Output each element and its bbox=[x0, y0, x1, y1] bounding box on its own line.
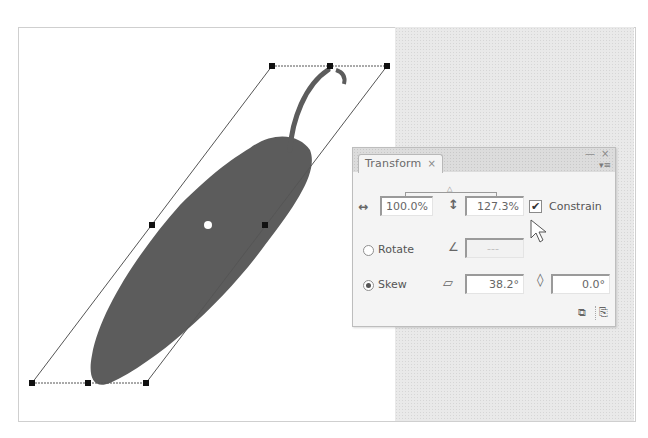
skew-label: Skew bbox=[378, 278, 407, 291]
scale-width-icon: ↔ bbox=[358, 200, 368, 214]
constrain-label: Constrain bbox=[549, 200, 602, 213]
rotate-label: Rotate bbox=[378, 243, 414, 256]
scale-height-input[interactable]: 127.3% bbox=[465, 196, 524, 216]
handle-top-center bbox=[327, 63, 333, 69]
constrain-link-icon: △ bbox=[447, 185, 452, 193]
rotate-angle-icon: ∠ bbox=[448, 240, 459, 254]
close-icon[interactable]: × bbox=[601, 148, 609, 159]
handle-bottom-center bbox=[85, 380, 91, 386]
handle-bottom-left bbox=[29, 380, 35, 386]
scale-height-icon: ↕ bbox=[448, 197, 459, 212]
handle-middle-left bbox=[149, 222, 155, 228]
handle-middle-right bbox=[262, 222, 268, 228]
chili-stem bbox=[290, 70, 328, 150]
rotate-angle-input[interactable]: --- bbox=[465, 238, 524, 258]
tab-close-icon[interactable]: × bbox=[428, 155, 437, 173]
handle-top-right bbox=[384, 63, 390, 69]
chili-pepper-shape[interactable] bbox=[91, 136, 312, 384]
skew-vertical-icon: ◊ bbox=[537, 272, 543, 287]
scale-width-input[interactable]: 100.0% bbox=[380, 196, 433, 216]
panel-header[interactable]: Transform × — × ▾≡ bbox=[353, 148, 615, 172]
reset-transform-button[interactable]: ⎘ bbox=[595, 306, 610, 320]
minimize-icon[interactable]: — bbox=[585, 148, 595, 159]
tab-label: Transform bbox=[365, 155, 422, 173]
transform-panel: Transform × — × ▾≡ △ ↔ 100.0% ↕ 127.3% ✔… bbox=[352, 147, 616, 327]
skew-horizontal-input[interactable]: 38.2° bbox=[465, 274, 524, 294]
rotate-radio[interactable] bbox=[363, 245, 374, 256]
skew-radio[interactable] bbox=[363, 280, 374, 291]
skew-horizontal-icon: ⏥ bbox=[443, 275, 453, 290]
skew-vertical-input[interactable]: 0.0° bbox=[551, 274, 610, 294]
handle-top-left bbox=[269, 63, 275, 69]
transform-center-point[interactable] bbox=[204, 221, 212, 229]
handle-bottom-right bbox=[143, 380, 149, 386]
duplicate-selection-button[interactable]: ⧉ bbox=[575, 306, 589, 320]
panel-menu-icon[interactable]: ▾≡ bbox=[597, 160, 611, 170]
constrain-checkbox[interactable]: ✔ bbox=[529, 200, 542, 213]
mouse-pointer-icon bbox=[529, 218, 549, 246]
tab-transform[interactable]: Transform × bbox=[358, 154, 443, 173]
